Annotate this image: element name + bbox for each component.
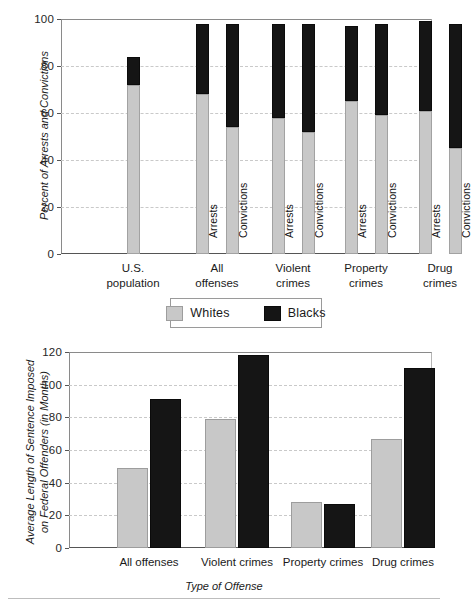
bar-segment-whites: Convictions xyxy=(449,148,462,254)
bar-segment-blacks xyxy=(449,24,462,149)
legend: Whites Blacks xyxy=(170,298,322,328)
legend-swatch-whites xyxy=(166,306,183,321)
arrests-convictions-chart: Percent of Arrests and Convictions 02040… xyxy=(0,0,448,290)
bar-inline-label: Convictions xyxy=(460,183,472,238)
legend-entry-whites: Whites xyxy=(166,306,229,321)
category-label: Drug crimes xyxy=(392,261,475,291)
bottom-chart-category-labels: All offensesViolent crimesProperty crime… xyxy=(0,340,448,603)
stacked-bar: Convictions xyxy=(449,24,462,254)
page-rule xyxy=(8,598,440,599)
category-label: Drug crimes xyxy=(348,555,458,570)
top-chart-category-labels: U.S. populationAll offensesViolent crime… xyxy=(0,0,448,290)
legend-label-blacks: Blacks xyxy=(288,306,326,320)
legend-entry-blacks: Blacks xyxy=(264,306,326,321)
sentence-length-chart: Average Length of Sentence Imposed on Fe… xyxy=(0,340,448,603)
bottom-chart-x-axis-title: Type of Offense xyxy=(0,580,448,594)
category-label: U.S. population xyxy=(85,261,181,291)
legend-swatch-blacks xyxy=(264,306,281,321)
legend-label-whites: Whites xyxy=(190,306,229,320)
